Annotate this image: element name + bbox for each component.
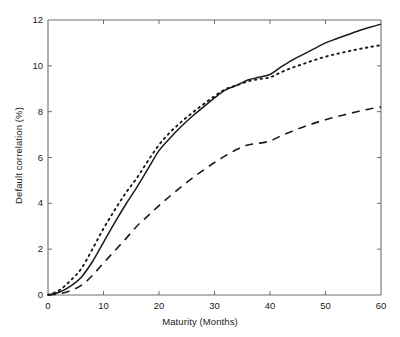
x-tick-label: 10 [89, 300, 119, 311]
series-line-dashed [48, 107, 381, 295]
series-line-solid [48, 24, 381, 295]
x-tick-label: 50 [311, 300, 341, 311]
y-tick-label: 0 [17, 289, 43, 300]
y-tick-label: 12 [17, 14, 43, 25]
x-tick-label: 40 [255, 300, 285, 311]
plot-canvas [0, 0, 400, 337]
x-tick-label: 20 [144, 300, 174, 311]
x-tick-label: 0 [33, 300, 63, 311]
series-line-dotted [48, 45, 381, 295]
y-tick-label: 2 [17, 243, 43, 254]
chart-figure: 0102030405060 024681012 Maturity (Months… [0, 0, 400, 337]
x-tick-label: 30 [200, 300, 230, 311]
x-axis-title: Maturity (Months) [0, 316, 400, 327]
data-series [48, 24, 381, 295]
x-tick-label: 60 [366, 300, 396, 311]
y-axis-title: Default correlation (%) [13, 86, 24, 226]
y-tick-label: 10 [17, 60, 43, 71]
